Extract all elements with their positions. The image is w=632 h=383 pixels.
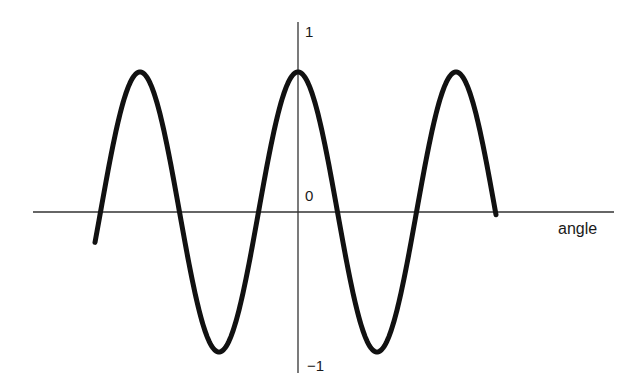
y-tick-label-minus-1: −1 [307,357,324,374]
origin-label: 0 [305,187,313,204]
cosine-chart: 1 0 −1 angle [0,0,632,383]
x-axis-label: angle [558,220,597,237]
y-tick-label-1: 1 [305,23,313,40]
chart-background [0,0,632,383]
